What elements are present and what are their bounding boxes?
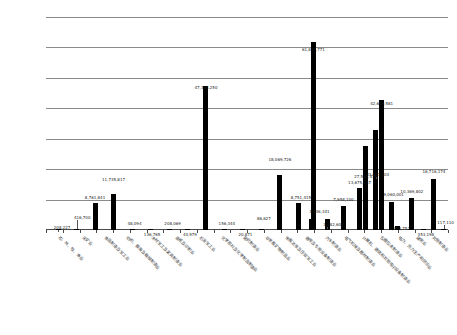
bar — [379, 100, 384, 230]
gridline — [46, 47, 448, 48]
x-axis-category-label: 建筑业 — [416, 234, 429, 247]
gridline — [46, 169, 448, 170]
bar-value-label: 208,069 — [164, 221, 181, 226]
x-axis-tick — [314, 230, 315, 233]
x-axis-tick — [364, 230, 365, 233]
bar-value-label: 42,659,581 — [370, 101, 393, 106]
x-axis-tick — [113, 230, 114, 233]
bar-value-label: 1,458,752 — [390, 226, 410, 231]
gridline — [46, 200, 448, 201]
x-axis-tick — [381, 230, 382, 233]
bar — [74, 229, 79, 230]
bar — [296, 203, 301, 230]
x-axis-tick — [130, 230, 131, 233]
x-axis-tick — [281, 230, 282, 233]
bar-value-label: 3,536,341 — [309, 209, 329, 214]
x-axis-tick — [46, 230, 47, 233]
gridline — [46, 78, 448, 79]
bar — [277, 175, 282, 230]
bar-value-label: 11,735,817 — [102, 177, 125, 182]
bar-value-label: 61,847,771 — [302, 47, 325, 52]
bar-chart: 010,000,00020,000,00030,000,00040,000,00… — [0, 0, 457, 335]
bar — [130, 229, 135, 230]
bar — [93, 203, 98, 230]
bar-value-label: 8,751,415 — [291, 195, 311, 200]
bar-value-label: 7,958,100 — [333, 197, 353, 202]
bar — [185, 229, 190, 230]
bar — [357, 188, 362, 230]
label-leader-line — [444, 225, 445, 229]
gridline — [46, 108, 448, 109]
label-leader-line — [327, 227, 328, 229]
bar-value-label: 10,369,802 — [400, 189, 423, 194]
x-axis-tick — [163, 230, 164, 233]
bar-value-label: 18,069,726 — [269, 157, 292, 162]
x-axis-tick — [348, 230, 349, 233]
bar — [373, 130, 378, 230]
bar — [240, 229, 245, 230]
bar — [311, 42, 316, 230]
gridline — [46, 17, 448, 18]
bar — [421, 229, 426, 230]
x-axis-tick — [96, 230, 97, 233]
x-axis-category-label: 石油加工业 — [199, 234, 218, 253]
bar-value-label: 86,627 — [257, 216, 271, 221]
bar-value-label: 3,482,608 — [323, 222, 343, 227]
bar-value-label: 208,227 — [54, 225, 71, 230]
bar — [441, 229, 446, 230]
bar-value-label: 16,716,174 — [422, 169, 445, 174]
bar-value-label: 156,344 — [219, 221, 236, 226]
bar — [409, 198, 414, 230]
bar-value-label: 47,388,250 — [195, 85, 218, 90]
bar — [431, 179, 436, 230]
x-axis-category-label: 医药制造业 — [243, 234, 262, 253]
x-axis-tick — [230, 230, 231, 233]
bar — [167, 229, 172, 230]
bar-value-label: 8,761,841 — [85, 195, 105, 200]
x-axis-tick — [214, 230, 215, 233]
bar — [111, 194, 116, 230]
bar-value-label: 48,094 — [127, 221, 141, 226]
x-axis-tick — [415, 230, 416, 233]
bar-value-label: 13,675,037 — [348, 180, 371, 185]
label-leader-line — [77, 220, 78, 229]
x-axis-category-label: 造纸及印刷业 — [174, 234, 196, 256]
bar — [259, 229, 264, 230]
x-axis-tick — [297, 230, 298, 233]
x-axis-category-label: 其他制造业 — [432, 234, 451, 253]
bar — [222, 229, 227, 230]
bar — [203, 86, 208, 230]
x-axis-category-label: 汽车制造业 — [325, 234, 344, 253]
x-axis-tick — [264, 230, 265, 233]
x-axis-category-labels: 农、林、牧、渔业采矿业食品制造及加工业纺织、服装及鞋帽制造业木材加工及家具制造业… — [46, 234, 448, 335]
bar — [363, 146, 368, 230]
bar — [148, 229, 153, 230]
x-axis-category-label: 采矿业 — [82, 234, 95, 247]
x-axis-tick — [331, 230, 332, 233]
gridline — [46, 139, 448, 140]
x-axis-tick — [180, 230, 181, 233]
bar-value-label: 27,500,475 — [354, 174, 377, 179]
x-axis-tick — [63, 230, 64, 233]
x-axis-tick — [80, 230, 81, 233]
bar-value-label: 117,110 — [437, 220, 454, 225]
label-leader-line — [58, 230, 59, 232]
plot-area: 010,000,00020,000,00030,000,00040,000,00… — [46, 17, 448, 230]
x-axis-tick — [448, 230, 449, 233]
